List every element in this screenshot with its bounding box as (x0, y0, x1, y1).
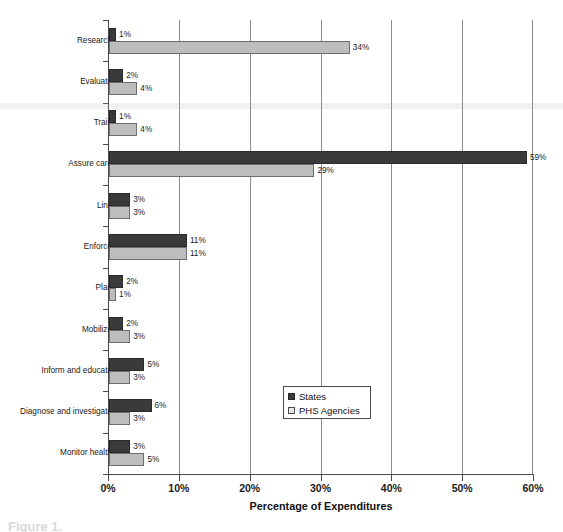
x-axis-tick-label: 60% (503, 482, 563, 494)
bar-phs-agencies (109, 123, 137, 136)
x-tick (533, 474, 534, 481)
category-label: Train (0, 118, 112, 128)
y-tick (103, 20, 108, 21)
bar-phs-agencies (109, 371, 130, 384)
category-label: Monitor health (0, 448, 112, 458)
bar-states (109, 69, 123, 82)
category-label: Research (0, 36, 112, 46)
x-tick (179, 474, 180, 481)
bar-value-phs-agencies: 3% (130, 206, 145, 219)
y-tick (103, 103, 108, 104)
bar-value-states: 2% (123, 275, 138, 288)
legend-label-states: States (299, 391, 326, 402)
bar-value-phs-agencies: 34% (350, 41, 369, 54)
y-tick (103, 268, 108, 269)
bar-phs-agencies (109, 453, 144, 466)
legend-label-phs-agencies: PHS Agencies (299, 405, 360, 416)
bar-phs-agencies (109, 288, 116, 301)
x-tick (108, 474, 109, 481)
x-axis-tick-label: 30% (291, 482, 351, 494)
x-tick (250, 474, 251, 481)
bar-value-states: 3% (130, 440, 145, 453)
bar-states (109, 151, 527, 164)
bar-value-states: 3% (130, 193, 145, 206)
bar-states (109, 28, 116, 41)
bar-value-phs-agencies: 3% (130, 330, 145, 343)
bar-chart-figure: Research1%34%Evaluate2%4%Train1%4%Assure… (0, 0, 563, 532)
legend-item-phs-agencies: PHS Agencies (288, 403, 370, 417)
x-axis-tick-label: 10% (149, 482, 209, 494)
y-tick (103, 144, 108, 145)
chart-legend: States PHS Agencies (283, 386, 371, 419)
bar-states (109, 234, 187, 247)
y-tick (103, 433, 108, 434)
legend-item-states: States (288, 389, 370, 403)
bar-value-phs-agencies: 5% (144, 453, 159, 466)
bar-states (109, 275, 123, 288)
y-tick (103, 309, 108, 310)
y-tick (103, 226, 108, 227)
bar-value-states: 1% (116, 28, 131, 41)
bar-states (109, 358, 144, 371)
bar-value-phs-agencies: 3% (130, 371, 145, 384)
x-tick (462, 474, 463, 481)
category-label: Diagnose and investigate (0, 407, 112, 417)
x-axis-tick-label: 0% (78, 482, 138, 494)
category-label: Plan (0, 283, 112, 293)
bar-states (109, 193, 130, 206)
x-axis-tick-label: 20% (220, 482, 280, 494)
x-tick (321, 474, 322, 481)
bar-value-states: 2% (123, 69, 138, 82)
bar-phs-agencies (109, 247, 187, 260)
bar-value-states: 59% (527, 151, 546, 164)
x-axis-tick-label: 40% (361, 482, 421, 494)
x-axis-tick-label: 50% (432, 482, 492, 494)
bar-phs-agencies (109, 82, 137, 95)
category-label: Mobilize (0, 325, 112, 335)
bar-phs-agencies (109, 164, 314, 177)
bar-states (109, 440, 130, 453)
bar-value-states: 5% (144, 358, 159, 371)
bar-value-states: 1% (116, 110, 131, 123)
bar-value-phs-agencies: 4% (137, 123, 152, 136)
bar-states (109, 317, 123, 330)
bar-states (109, 399, 152, 412)
bar-value-phs-agencies: 4% (137, 82, 152, 95)
gridline (462, 20, 463, 474)
category-label: Evaluate (0, 77, 112, 87)
bar-value-states: 6% (152, 399, 167, 412)
bar-states (109, 110, 116, 123)
category-label: Link (0, 201, 112, 211)
y-tick (103, 61, 108, 62)
bar-value-phs-agencies: 1% (116, 288, 131, 301)
bar-phs-agencies (109, 412, 130, 425)
y-tick (103, 391, 108, 392)
bar-phs-agencies (109, 41, 350, 54)
bar-phs-agencies (109, 330, 130, 343)
y-tick (103, 185, 108, 186)
category-label: Inform and educate (0, 366, 112, 376)
bar-value-phs-agencies: 29% (314, 164, 333, 177)
bar-value-states: 2% (123, 317, 138, 330)
bar-phs-agencies (109, 206, 130, 219)
gridline (391, 20, 392, 474)
gridline (250, 20, 251, 474)
bar-value-states: 11% (187, 234, 206, 247)
bar-value-phs-agencies: 11% (187, 247, 206, 260)
category-label: Enforce (0, 242, 112, 252)
bar-value-phs-agencies: 3% (130, 412, 145, 425)
category-label: Assure care (0, 159, 112, 169)
figure-caption: Figure 1. (8, 519, 62, 532)
x-tick (391, 474, 392, 481)
x-axis-title: Percentage of Expenditures (108, 500, 534, 512)
y-tick (103, 474, 108, 475)
legend-swatch-phs-icon (288, 407, 295, 414)
legend-swatch-states-icon (288, 393, 295, 400)
y-tick (103, 350, 108, 351)
